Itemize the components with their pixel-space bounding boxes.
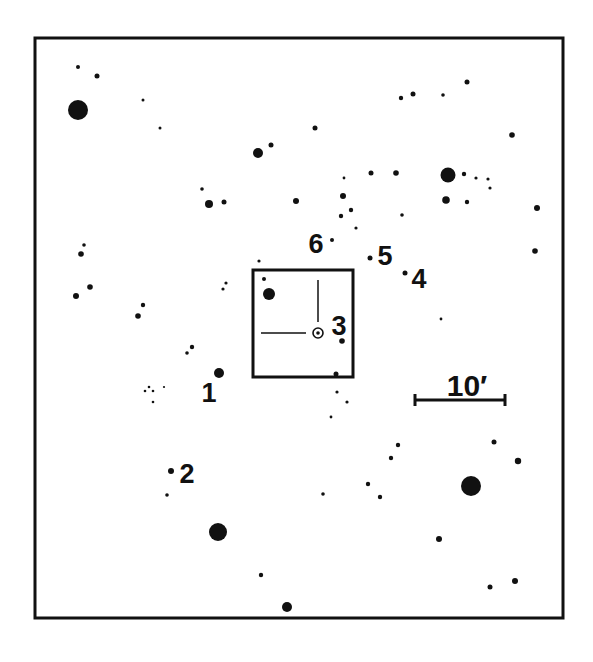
star-dot (486, 177, 489, 180)
star-dot (462, 172, 466, 176)
star-dot (378, 495, 382, 499)
star-labels: 123456 (179, 229, 426, 489)
star-dot (313, 126, 318, 131)
star-dot (135, 313, 141, 319)
star-dot (259, 573, 263, 577)
star-dot (78, 251, 84, 257)
finder-chart: 123456 10′ (0, 0, 593, 662)
star-dot (282, 602, 292, 612)
star-dot (512, 578, 518, 584)
target-marker-icon (313, 328, 323, 338)
star-dot (366, 482, 370, 486)
star-dot (73, 293, 79, 299)
star-dot (399, 96, 403, 100)
star-dot (403, 271, 408, 276)
star-label-4: 4 (411, 264, 426, 294)
star-dot (321, 492, 325, 496)
star-dot (411, 92, 416, 97)
star-field (68, 65, 540, 612)
star-dot (165, 493, 169, 497)
chart-frame (35, 38, 563, 618)
star-dot (400, 213, 404, 217)
star-dot (436, 536, 442, 542)
star-dot (465, 80, 470, 85)
star-dot (330, 238, 334, 242)
star-label-2: 2 (179, 459, 194, 489)
star-dot (152, 401, 155, 404)
star-dot (163, 386, 165, 388)
star-label-3: 3 (331, 311, 346, 341)
star-dot (222, 200, 227, 205)
star-dot (354, 226, 357, 229)
star-dot (214, 368, 224, 378)
star-dot (474, 176, 477, 179)
star-dot (465, 200, 469, 204)
star-dot (389, 456, 393, 460)
star-dot (441, 168, 456, 183)
star-dot (509, 132, 515, 138)
star-dot (159, 127, 162, 130)
star-label-6: 6 (308, 229, 323, 259)
star-dot (253, 148, 263, 158)
star-dot (262, 277, 266, 281)
star-dot (461, 476, 481, 496)
star-dot (396, 443, 400, 447)
star-dot (257, 259, 260, 262)
star-dot (152, 390, 155, 393)
star-dot (393, 170, 399, 176)
star-dot (87, 284, 93, 290)
star-dot (263, 288, 275, 300)
star-dot (269, 143, 274, 148)
star-dot (488, 585, 493, 590)
star-dot (340, 193, 346, 199)
star-dot (335, 390, 338, 393)
star-dot (82, 243, 86, 247)
star-dot (76, 65, 80, 69)
star-dot (534, 205, 540, 211)
star-dot (492, 440, 497, 445)
star-dot (142, 99, 145, 102)
star-dot (144, 390, 147, 393)
star-dot (224, 281, 227, 284)
star-dot (441, 93, 445, 97)
star-dot (205, 200, 213, 208)
star-dot (68, 100, 88, 120)
star-dot (440, 318, 443, 321)
star-dot (168, 468, 174, 474)
scale-bar: 10′ (415, 369, 505, 406)
star-dot (339, 214, 343, 218)
star-dot (200, 187, 204, 191)
star-dot (345, 400, 348, 403)
star-dot (532, 248, 538, 254)
star-dot (330, 416, 333, 419)
star-dot (369, 171, 374, 176)
star-dot (185, 351, 189, 355)
star-dot (148, 386, 151, 389)
star-dot (488, 186, 491, 189)
star-dot (349, 208, 353, 212)
star-dot (209, 523, 227, 541)
star-dot (368, 256, 373, 261)
star-dot (221, 287, 224, 290)
star-dot (190, 345, 194, 349)
star-dot (343, 177, 346, 180)
scale-bar-label: 10′ (447, 369, 488, 402)
star-dot (95, 74, 100, 79)
star-label-1: 1 (201, 378, 216, 408)
star-dot (442, 196, 450, 204)
star-label-5: 5 (377, 241, 392, 271)
star-dot (141, 303, 145, 307)
star-dot (293, 198, 299, 204)
star-dot (515, 458, 521, 464)
